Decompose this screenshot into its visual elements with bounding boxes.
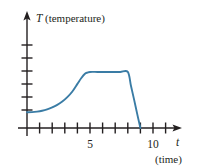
x-axis-variable-label: t — [176, 136, 180, 148]
temperature-vs-time-figure: T (temperature) 5 10 t (time) — [0, 0, 199, 168]
x-tick-label-5: 5 — [87, 138, 93, 150]
temperature-curve-group — [27, 71, 140, 128]
y-axis-variable-label: T — [36, 12, 44, 24]
y-axis-group — [22, 11, 33, 136]
temperature-curve — [27, 71, 140, 128]
x-axis-group — [18, 123, 182, 134]
x-axis-unit-label: (time) — [155, 153, 182, 166]
y-axis-unit-label: (temperature) — [45, 12, 105, 25]
x-tick-label-10: 10 — [147, 138, 159, 150]
plot-canvas: T (temperature) 5 10 t (time) — [0, 0, 199, 168]
